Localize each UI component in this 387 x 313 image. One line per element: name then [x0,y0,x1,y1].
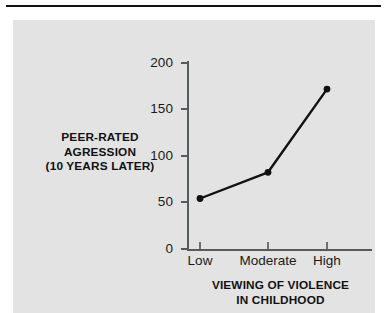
x-axis-title-line-2: IN CHILDHOOD [173,293,387,308]
header-rule [6,5,381,7]
y-axis-title-line-1: PEER-RATED [27,130,173,145]
chart-panel: 200 150 100 50 0 Low Moderate High [13,20,375,313]
data-point-moderate [265,169,272,176]
data-point-low [197,195,204,202]
y-axis-title: PEER-RATED AGRESSION (10 YEARS LATER) [27,130,173,174]
y-axis-title-line-3: (10 YEARS LATER) [27,159,173,174]
figure-page: 200 150 100 50 0 Low Moderate High [0,0,387,313]
data-point-high [324,86,331,93]
plot-area: 200 150 100 50 0 Low Moderate High [13,20,375,313]
y-axis-title-line-2: AGRESSION [27,145,173,160]
x-axis-title-line-1: VIEWING OF VIOLENCE [173,278,387,293]
x-axis-title: VIEWING OF VIOLENCE IN CHILDHOOD [173,278,387,307]
